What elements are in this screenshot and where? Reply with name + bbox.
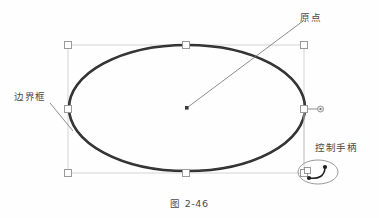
handle-top-center[interactable]: [183, 42, 190, 49]
rotate-handle-square[interactable]: [305, 168, 311, 174]
rotate-arrow-head: [323, 165, 327, 169]
figure-caption: 图 2-46: [0, 196, 379, 210]
connector-dot-core: [319, 108, 321, 110]
control-handle-annotation-label: 控制手柄: [315, 143, 357, 153]
rotate-arrow-tail: [307, 176, 311, 180]
handle-middle-left[interactable]: [65, 106, 72, 113]
connector-stub: [308, 106, 324, 112]
handle-bottom-center[interactable]: [183, 170, 190, 177]
figure-container: 原点 边界框 控制手柄 图 2-46: [0, 0, 379, 218]
figure-canvas: [0, 0, 379, 218]
handle-middle-right[interactable]: [301, 106, 308, 113]
rotate-arrow-path: [309, 168, 325, 178]
origin-leader-line: [188, 21, 303, 107]
handle-top-left[interactable]: [65, 42, 72, 49]
bounding-box-annotation-label: 边界框: [14, 92, 46, 102]
handle-top-right[interactable]: [301, 42, 308, 49]
origin-annotation-label: 原点: [300, 13, 321, 23]
handle-bottom-left[interactable]: [65, 170, 72, 177]
